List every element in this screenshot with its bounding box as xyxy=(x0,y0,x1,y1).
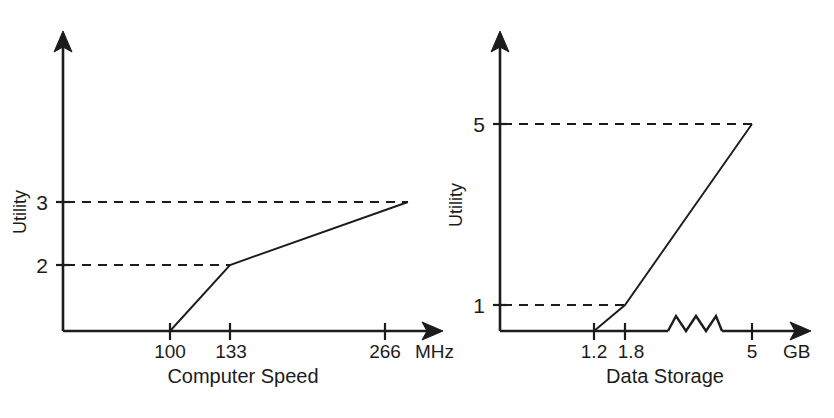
right-y-axis-title: Utility xyxy=(446,183,466,227)
right-x-axis-break-zigzag xyxy=(668,316,722,331)
left-y-value-label-2: 2 xyxy=(36,254,48,277)
left-y-axis-title: Utility xyxy=(10,190,30,234)
left-y-value-label-3: 3 xyxy=(36,191,48,214)
right-utility-curve xyxy=(594,124,752,331)
right-x-tick-label-1-8: 1.8 xyxy=(618,341,644,362)
left-x-tick-label-266: 266 xyxy=(369,341,401,362)
right-chart-group: 1.2 1.8 5 GB 5 1 Utility Data Storage xyxy=(446,31,811,387)
figure-canvas: 100 133 266 MHz 3 2 Utility Computer Spe… xyxy=(0,0,834,418)
right-x-tick-label-5: 5 xyxy=(747,341,758,362)
right-x-axis-title: Data Storage xyxy=(606,365,724,387)
left-chart-group: 100 133 266 MHz 3 2 Utility Computer Spe… xyxy=(10,31,454,387)
utility-functions-figure: 100 133 266 MHz 3 2 Utility Computer Spe… xyxy=(0,0,834,418)
left-x-axis-title: Computer Speed xyxy=(167,365,318,387)
left-x-tick-label-100: 100 xyxy=(154,341,186,362)
right-x-tick-label-1-2: 1.2 xyxy=(581,341,607,362)
right-y-value-label-1: 1 xyxy=(473,294,485,317)
left-utility-curve xyxy=(170,202,408,331)
right-y-value-label-5: 5 xyxy=(473,113,485,136)
left-x-tick-label-133: 133 xyxy=(215,341,247,362)
left-x-unit-label: MHz xyxy=(415,341,454,362)
right-x-unit-label: GB xyxy=(783,341,810,362)
